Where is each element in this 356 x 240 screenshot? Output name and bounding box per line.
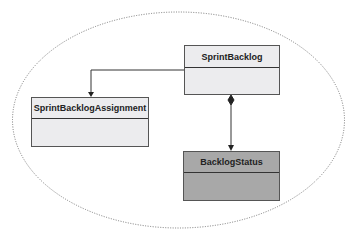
association-line [91,70,184,93]
class-sprint-backlog[interactable]: SprintBacklog [184,45,280,95]
class-backlog-status[interactable]: BacklogStatus [183,151,280,201]
composition-diamond-icon [228,95,234,105]
class-sprint-backlog-assignment[interactable]: SprintBacklogAssignment [31,97,149,147]
class-attributes [184,173,279,200]
class-name: BacklogStatus [184,152,279,173]
class-name: SprintBacklogAssignment [32,98,148,119]
class-attributes [32,119,148,146]
class-attributes [185,68,279,94]
class-name: SprintBacklog [185,46,279,68]
